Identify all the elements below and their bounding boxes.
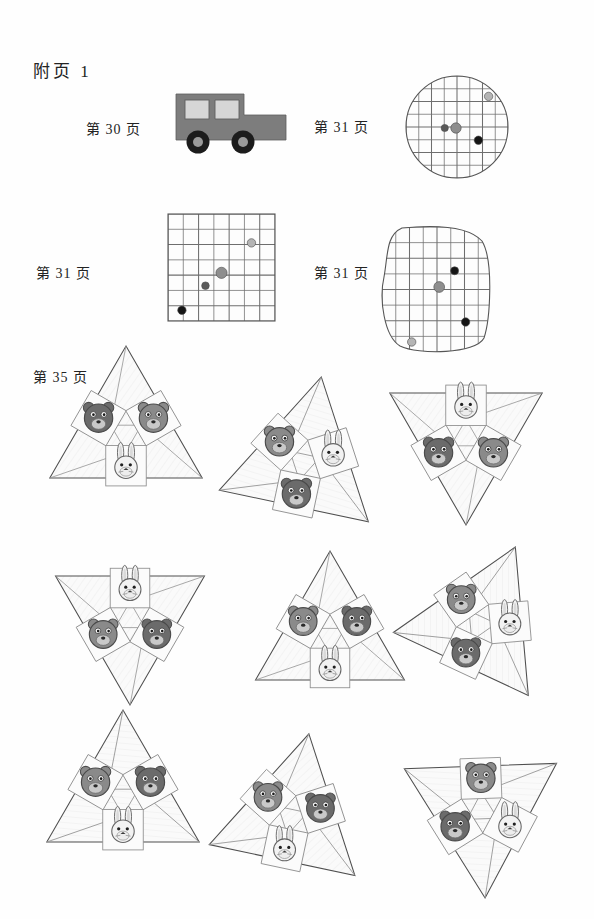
triangle-cell-bottom bbox=[446, 382, 486, 425]
bear-icon bbox=[88, 619, 118, 648]
triangle-piece-mid-left bbox=[56, 565, 205, 705]
bear-icon bbox=[142, 619, 172, 648]
cutout-artwork bbox=[0, 0, 594, 919]
triangle-piece-bottom-center bbox=[208, 718, 382, 883]
cell-illustration bbox=[451, 638, 481, 667]
triangle-piece-bottom-right bbox=[397, 699, 594, 902]
dot-mid-center bbox=[451, 123, 461, 133]
dot-black-right bbox=[474, 136, 482, 144]
bear-icon bbox=[423, 437, 453, 467]
cell-illustration bbox=[306, 793, 336, 822]
dot-black-bottomleft bbox=[178, 306, 186, 314]
bear-icon bbox=[446, 584, 476, 613]
car-window-rear bbox=[185, 100, 209, 119]
bear-icon bbox=[306, 793, 336, 822]
bear-icon bbox=[451, 638, 481, 667]
dot-black-upper bbox=[451, 267, 459, 275]
dot-light-topright bbox=[484, 92, 492, 100]
car-window-front bbox=[215, 100, 239, 119]
square-grid-cutout bbox=[164, 210, 279, 325]
triangle-cell-bottom bbox=[310, 645, 350, 687]
cell-illustration bbox=[423, 437, 453, 467]
triangle-piece-bottom-left bbox=[9, 706, 207, 908]
cell-illustration bbox=[281, 478, 311, 508]
dot-dark-left bbox=[441, 124, 448, 131]
dot-mid-center bbox=[216, 267, 227, 278]
triangle-cell-left bbox=[460, 757, 502, 799]
bear-icon bbox=[264, 426, 294, 456]
triangle-cell-left bbox=[488, 597, 531, 644]
cell-illustration bbox=[440, 811, 470, 841]
car-hub-rear bbox=[193, 137, 203, 147]
triangle-outline bbox=[393, 547, 589, 738]
cell-illustration bbox=[264, 426, 294, 456]
car-hub-front bbox=[238, 137, 248, 147]
bear-icon bbox=[80, 766, 110, 796]
cell-illustration bbox=[83, 402, 113, 432]
appendix-page: 附页 1 第 30 页 第 31 页 第 31 页 第 31 页 第 35 页 bbox=[0, 0, 594, 919]
triangle-cell-bottom bbox=[106, 442, 146, 485]
cell-illustration bbox=[478, 437, 508, 467]
bear-icon bbox=[281, 478, 311, 508]
bear-icon bbox=[466, 763, 496, 793]
triangle-piece-mid-right bbox=[388, 540, 589, 739]
dot-black-lowerright bbox=[461, 318, 469, 326]
bear-icon bbox=[478, 437, 508, 467]
cell-illustration bbox=[446, 584, 476, 613]
cell-illustration bbox=[80, 766, 110, 796]
dot-dark-lowerleft bbox=[202, 282, 210, 290]
triangle-outline bbox=[9, 710, 200, 908]
triangle-cell-bottom bbox=[110, 565, 150, 607]
car-cutout bbox=[176, 94, 286, 154]
bear-icon bbox=[342, 606, 372, 635]
car-figure-group bbox=[176, 94, 286, 154]
bear-icon bbox=[135, 766, 165, 796]
bear-icon bbox=[440, 811, 470, 841]
triangle-piece-top-right bbox=[390, 382, 542, 525]
cell-illustration bbox=[138, 402, 168, 432]
circle-grid-cutout bbox=[402, 72, 512, 182]
dot-light-upperright bbox=[247, 239, 255, 247]
triangle-piece-mid-center bbox=[256, 551, 405, 688]
cell-illustration bbox=[135, 766, 165, 796]
cell-illustration bbox=[342, 606, 372, 635]
cell-illustration bbox=[142, 619, 172, 648]
cell-illustration bbox=[288, 606, 318, 635]
triangle-piece-top-left bbox=[50, 346, 202, 486]
bear-icon bbox=[288, 606, 318, 635]
triangle-pieces-group bbox=[9, 346, 594, 908]
bear-icon bbox=[83, 402, 113, 432]
bear-icon bbox=[138, 402, 168, 432]
cell-illustration bbox=[88, 619, 118, 648]
dot-light-bottomleft bbox=[408, 338, 416, 346]
triangle-cell-left bbox=[103, 806, 143, 849]
cell-illustration bbox=[466, 763, 496, 793]
rounded-blob-grid-cutout bbox=[378, 223, 496, 356]
cell-illustration bbox=[253, 782, 283, 811]
triangle-piece-top-center bbox=[196, 374, 376, 562]
dot-mid-center bbox=[434, 282, 445, 293]
triangle-cell-left bbox=[272, 470, 320, 518]
bear-icon bbox=[253, 782, 283, 811]
